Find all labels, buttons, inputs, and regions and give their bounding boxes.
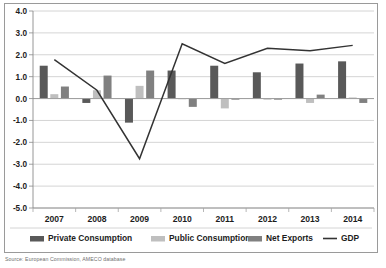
y-axis-tick-label: -3.0 — [13, 160, 28, 169]
x-axis-tick-label: 2013 — [301, 214, 320, 224]
x-axis-tick-label: 2007 — [45, 214, 64, 224]
bar — [221, 99, 229, 109]
y-axis-tick-label: 4.0 — [16, 7, 28, 16]
y-axis-tick-label: 1.0 — [16, 73, 28, 82]
y-axis-tick-label: 0.0 — [16, 95, 28, 104]
bar — [168, 71, 176, 99]
bar-series-group — [40, 61, 368, 122]
y-axis-tick-label: 2.0 — [16, 51, 28, 60]
legend-label: GDP — [341, 233, 360, 243]
bar — [40, 66, 48, 99]
x-axis-tick-labels: 20072008200920102011201220132014 — [45, 214, 363, 224]
chart-legend: Private ConsumptionPublic ConsumptionNet… — [10, 228, 372, 243]
y-axis-tick-label: -2.0 — [13, 138, 28, 147]
x-axis-tick-label: 2008 — [87, 214, 106, 224]
y-axis-tick-label: -1.0 — [13, 116, 28, 125]
bar — [50, 94, 58, 98]
legend-label: Private Consumption — [48, 233, 132, 243]
chart-plot-area: 4.03.02.01.00.0-1.0-2.0-3.0-4.0-5.0 2007… — [0, 0, 386, 268]
bar — [253, 72, 261, 98]
y-axis-tick-labels: 4.03.02.01.00.0-1.0-2.0-3.0-4.0-5.0 — [13, 7, 28, 213]
bar — [125, 99, 133, 123]
legend-swatch — [30, 236, 44, 242]
x-axis-tick-label: 2009 — [130, 214, 149, 224]
x-axis-group — [33, 11, 374, 212]
legend-swatch — [151, 236, 165, 242]
bar — [136, 86, 144, 99]
source-caption: Source: European Commission, AMECO datab… — [5, 256, 126, 262]
legend-label: Public Consumption — [169, 233, 250, 243]
bar — [338, 61, 346, 98]
gridline-group — [33, 11, 374, 208]
x-axis-tick-label: 2014 — [343, 214, 362, 224]
chart-container: 4.03.02.01.00.0-1.0-2.0-3.0-4.0-5.0 2007… — [0, 0, 386, 268]
x-axis-tick-label: 2012 — [258, 214, 277, 224]
bar — [189, 99, 197, 107]
bar — [306, 99, 314, 103]
bar — [210, 66, 218, 99]
bar — [61, 87, 69, 99]
bar — [104, 76, 112, 99]
legend-swatch — [248, 236, 262, 242]
y-axis-tick-label: -4.0 — [13, 182, 28, 191]
bar — [146, 71, 154, 99]
y-axis-tick-label: -5.0 — [13, 204, 28, 213]
legend-label: Net Exports — [266, 233, 313, 243]
x-axis-tick-label: 2010 — [173, 214, 192, 224]
bar — [82, 99, 90, 103]
bar — [317, 95, 325, 99]
bar — [359, 99, 367, 103]
x-axis-tick-label: 2011 — [215, 214, 234, 224]
bar — [295, 64, 303, 99]
y-axis-tick-label: 3.0 — [16, 29, 28, 38]
y-tick-mark-group — [29, 11, 33, 208]
